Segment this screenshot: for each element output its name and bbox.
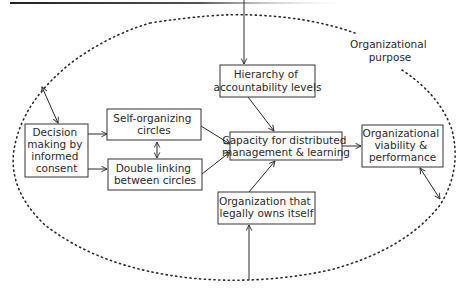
node-hierarchy: Hierarchy of accountability levels	[214, 65, 322, 97]
svg-text:Capacity for distributed: Capacity for distributed management & le…	[222, 134, 350, 158]
edge-boundary-decision	[42, 87, 58, 123]
svg-text:Organizational viability: Organizational viability & performance	[363, 127, 443, 163]
node-decision: Decision making by informed consent	[25, 124, 88, 177]
node-capacity: Capacity for distributed management & le…	[222, 132, 350, 160]
svg-text:Decision making by: Decision making by informed consent	[27, 126, 86, 174]
node-self-organizing: Self-organizing circles	[107, 109, 201, 140]
sociocracy-diagram: Organizational purpose Hierarchy of acco…	[0, 0, 468, 294]
edge-viability-boundary	[420, 168, 440, 199]
top-rule	[10, 2, 355, 4]
svg-text:Organization that legall: Organization that legally owns itself	[219, 195, 314, 219]
node-double-linking: Double linking between circles	[108, 159, 202, 190]
node-owns-itself: Organization that legally owns itself	[218, 192, 315, 224]
node-viability: Organizational viability & performance	[362, 125, 443, 167]
edge-owns-capacity	[249, 161, 275, 192]
boundary-label: Organizational purpose	[350, 38, 430, 63]
svg-text:Double linking between c: Double linking between circles	[114, 162, 196, 186]
edge-hierarchy-capacity	[248, 97, 274, 131]
